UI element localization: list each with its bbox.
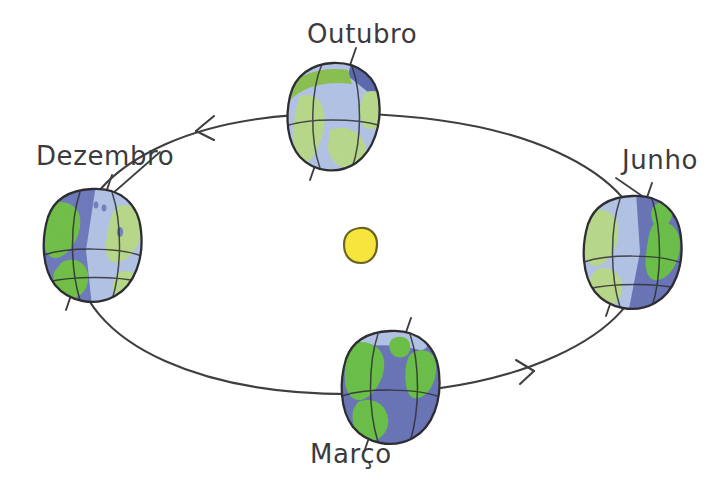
label-outubro: Outubro xyxy=(307,21,417,47)
orbit-arrow-lower-right xyxy=(516,360,534,384)
sun xyxy=(344,228,377,263)
label-dezembro: Dezembro xyxy=(36,143,174,169)
earth-junho xyxy=(580,178,686,317)
label-marco: Março xyxy=(310,441,392,467)
diagram-canvas xyxy=(0,0,720,493)
label-junho: Junho xyxy=(622,147,698,173)
sun-body xyxy=(344,228,377,263)
earth-orbit-diagram: Outubro Dezembro Junho Março xyxy=(0,0,720,493)
earth-dezembro xyxy=(40,152,160,310)
earth-outubro xyxy=(280,48,392,180)
earth-marco xyxy=(338,318,444,452)
